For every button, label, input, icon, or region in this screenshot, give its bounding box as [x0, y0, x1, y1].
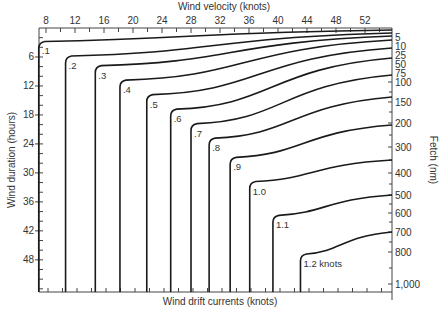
fetch-tick-label: 800: [395, 247, 412, 258]
fetch-tick-label: 100: [395, 77, 412, 88]
current-curve: [147, 48, 392, 292]
left-tick-label: 36: [23, 196, 35, 207]
top-tick-label: 48: [330, 15, 342, 26]
fetch-tick-label: 300: [395, 142, 412, 153]
top-tick-label: 24: [156, 15, 168, 26]
curve-label: .8: [212, 142, 220, 153]
top-tick-label: 8: [43, 15, 49, 26]
current-curves: [39, 30, 392, 292]
top-tick-label: 40: [272, 15, 284, 26]
curve-label: .2: [69, 60, 77, 71]
curve-label: 1.0: [253, 186, 266, 197]
current-curve: [191, 75, 392, 292]
fetch-tick-label: 200: [395, 118, 412, 129]
curve-label: 1.1: [276, 219, 289, 230]
bottom-axis-title: Wind drift currents (knots): [163, 296, 277, 307]
top-tick-label: 16: [98, 15, 110, 26]
current-curve: [171, 58, 392, 292]
top-tick-label: 12: [69, 15, 81, 26]
top-tick-label: 44: [301, 15, 313, 26]
curve-labels: .1.2.3.4.5.6.7.8.91.01.11.2 knots: [42, 45, 343, 269]
left-tick-label: 48: [23, 254, 35, 265]
right-axis-title: Fetch (nm): [428, 136, 439, 184]
fetch-tick-label: 150: [395, 97, 412, 108]
curve-label: .9: [233, 161, 241, 172]
curve-label: .1: [42, 45, 50, 56]
wind-drift-current-chart: Wind velocity (knots) Wind drift current…: [0, 0, 439, 314]
left-axis-ticks: 612182430364248: [23, 38, 43, 289]
fetch-tick-label: 500: [395, 190, 412, 201]
bottom-axis-ticks: [48, 288, 382, 292]
top-axis-ticks: 81216202428323640444852: [43, 15, 379, 33]
curve-label: .6: [174, 113, 182, 124]
curve-label: .5: [150, 99, 158, 110]
left-tick-label: 6: [28, 51, 34, 62]
top-tick-label: 36: [243, 15, 255, 26]
left-axis-title: Wind duration (hours): [6, 112, 17, 208]
top-tick-label: 52: [359, 15, 371, 26]
current-curve: [66, 33, 392, 292]
current-curve: [273, 195, 392, 292]
top-tick-label: 20: [127, 15, 139, 26]
current-curve: [120, 40, 392, 292]
top-tick-label: 28: [185, 15, 197, 26]
right-axis-ticks: 5102550751001502003004005006007008001,00…: [388, 32, 420, 290]
top-axis-title: Wind velocity (knots): [178, 1, 270, 12]
curve-label: .4: [123, 84, 131, 95]
left-tick-label: 12: [23, 80, 35, 91]
left-tick-label: 30: [23, 167, 35, 178]
left-tick-label: 24: [23, 138, 35, 149]
current-curve: [250, 160, 392, 292]
curve-label: 1.2 knots: [303, 258, 342, 269]
fetch-tick-label: 700: [395, 227, 412, 238]
top-tick-label: 32: [214, 15, 226, 26]
fetch-tick-label: 1,000: [395, 279, 420, 290]
left-tick-label: 18: [23, 109, 35, 120]
curve-label: .7: [194, 128, 202, 139]
fetch-tick-label: 400: [395, 168, 412, 179]
curve-label: .3: [98, 70, 106, 81]
fetch-tick-label: 600: [395, 208, 412, 219]
left-tick-label: 42: [23, 225, 35, 236]
